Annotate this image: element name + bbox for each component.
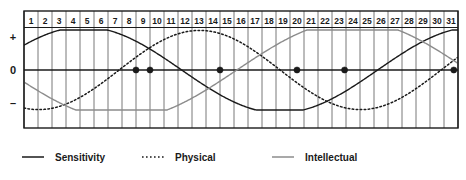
day-number-24: 24 (348, 16, 358, 26)
day-number-17: 17 (250, 16, 260, 26)
y-axis-positive-label: + (10, 31, 16, 43)
legend-label-sensitivity: Sensitivity (55, 152, 105, 163)
legend-item-sensitivity: Sensitivity (22, 152, 105, 163)
day-number-6: 6 (99, 16, 104, 26)
day-number-2: 2 (43, 16, 48, 26)
day-number-27: 27 (390, 16, 400, 26)
day-number-29: 29 (418, 16, 428, 26)
day-number-22: 22 (320, 16, 330, 26)
day-number-18: 18 (264, 16, 274, 26)
legend-label-physical: Physical (175, 152, 216, 163)
day-number-5: 5 (85, 16, 90, 26)
biorhythm-chart: +0– 123456789101112131415161718192021222… (0, 0, 466, 180)
day-number-28: 28 (404, 16, 414, 26)
zero-crossing-dot-intellectual-day-31.7 (451, 67, 457, 73)
day-number-13: 13 (194, 16, 204, 26)
day-number-19: 19 (278, 16, 288, 26)
legend-item-intellectual: Intellectual (272, 152, 357, 163)
biorhythm-plot: +0– 123456789101112131415161718192021222… (0, 0, 466, 180)
day-number-16: 16 (236, 16, 246, 26)
day-number-26: 26 (376, 16, 386, 26)
day-number-30: 30 (432, 16, 442, 26)
zero-crossing-dot-physical-day-9 (133, 67, 139, 73)
day-number-1: 1 (29, 16, 34, 26)
day-number-9: 9 (141, 16, 146, 26)
day-number-20: 20 (292, 16, 302, 26)
day-number-21: 21 (306, 16, 316, 26)
chart-legend: SensitivityPhysicalIntellectual (22, 152, 357, 163)
day-number-15: 15 (222, 16, 232, 26)
day-number-23: 23 (334, 16, 344, 26)
day-number-3: 3 (57, 16, 62, 26)
y-axis-negative-label: – (10, 97, 16, 109)
day-number-31: 31 (446, 16, 456, 26)
zero-crossing-dot-sensitivity-day-10 (147, 67, 153, 73)
day-number-25: 25 (362, 16, 372, 26)
zero-crossing-dot-physical-day-20.5 (294, 67, 300, 73)
day-number-10: 10 (152, 16, 162, 26)
day-number-12: 12 (180, 16, 190, 26)
day-number-11: 11 (167, 16, 176, 26)
day-number-7: 7 (113, 16, 118, 26)
zero-crossing-dot-sensitivity-day-23.9 (342, 67, 348, 73)
day-number-14: 14 (208, 16, 218, 26)
day-number-8: 8 (127, 16, 132, 26)
legend-label-intellectual: Intellectual (305, 152, 357, 163)
y-axis-labels: +0– (10, 31, 16, 109)
legend-item-physical: Physical (142, 152, 216, 163)
zero-crossing-dot-intellectual-day-15 (217, 67, 223, 73)
y-axis-zero-label: 0 (10, 64, 16, 76)
day-number-4: 4 (71, 16, 76, 26)
